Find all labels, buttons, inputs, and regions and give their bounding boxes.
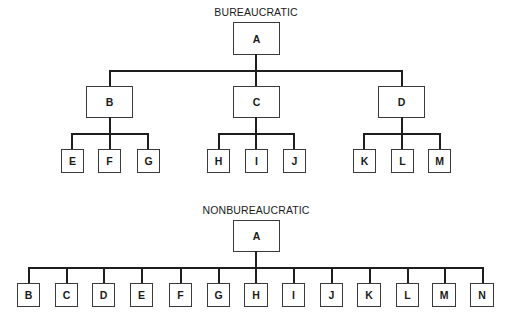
node-m: M bbox=[432, 283, 456, 307]
connector bbox=[293, 133, 295, 149]
connector bbox=[331, 267, 333, 283]
node-i: I bbox=[245, 149, 268, 173]
connector bbox=[439, 133, 441, 149]
node-e: E bbox=[61, 149, 84, 173]
connector bbox=[482, 267, 484, 283]
node-n: N bbox=[470, 283, 494, 307]
node-g: G bbox=[137, 149, 160, 173]
node-m: M bbox=[428, 149, 451, 173]
connector bbox=[363, 133, 365, 149]
connector bbox=[218, 267, 220, 283]
node-l: L bbox=[391, 149, 414, 173]
connector bbox=[147, 133, 149, 149]
connector bbox=[218, 133, 295, 135]
connector bbox=[66, 267, 68, 283]
node-c: C bbox=[55, 283, 78, 307]
node-e: E bbox=[130, 283, 153, 307]
connector bbox=[180, 267, 182, 283]
node-h: H bbox=[207, 149, 230, 173]
connector bbox=[444, 267, 446, 283]
node-j: J bbox=[320, 283, 343, 307]
connector bbox=[71, 133, 149, 135]
connector bbox=[407, 267, 409, 283]
connector bbox=[71, 133, 73, 149]
bureaucratic-title: BUREAUCRATIC bbox=[214, 6, 297, 18]
connector bbox=[103, 267, 105, 283]
nonbureaucratic-title: NONBUREAUCRATIC bbox=[203, 204, 310, 216]
node-k: K bbox=[353, 149, 376, 173]
node-k: K bbox=[357, 283, 381, 307]
node-c: C bbox=[233, 86, 280, 118]
node-i: I bbox=[282, 283, 305, 307]
node-f: F bbox=[169, 283, 192, 307]
node-f: F bbox=[98, 149, 121, 173]
node-b: B bbox=[17, 283, 40, 307]
connector bbox=[28, 267, 30, 283]
node-d: D bbox=[378, 86, 425, 118]
node-a: A bbox=[233, 22, 280, 55]
connector bbox=[369, 267, 371, 283]
connector bbox=[363, 133, 441, 135]
connector bbox=[218, 133, 220, 149]
node-l: L bbox=[396, 283, 419, 307]
node-a: A bbox=[233, 220, 280, 252]
connector bbox=[141, 267, 143, 283]
node-h: H bbox=[244, 283, 268, 307]
node-b: B bbox=[86, 86, 133, 118]
connector bbox=[293, 267, 295, 283]
node-d: D bbox=[92, 283, 115, 307]
connector bbox=[401, 70, 403, 86]
connector bbox=[109, 70, 403, 72]
node-g: G bbox=[207, 283, 230, 307]
connector bbox=[28, 267, 484, 269]
connector bbox=[109, 70, 111, 86]
node-j: J bbox=[283, 149, 306, 173]
